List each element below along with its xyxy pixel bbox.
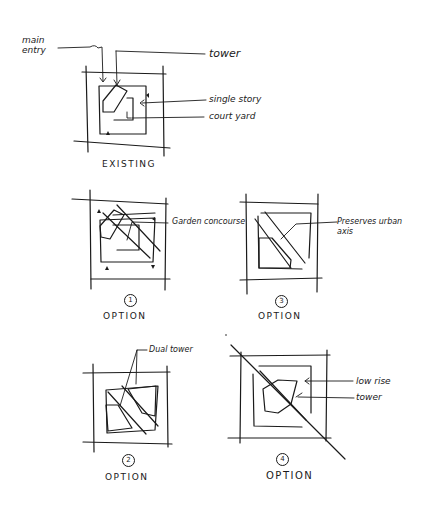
option-4-plan — [225, 334, 354, 459]
label-single-story: single story — [209, 95, 261, 104]
option-2-plan — [83, 350, 172, 452]
caption-option-2: OPTION — [105, 473, 148, 482]
label-dual-tower: Dual tower — [149, 346, 193, 354]
caption-option-4: OPTION — [266, 471, 313, 481]
option-2-number: 2 — [122, 454, 135, 467]
label-main-entry-line1: main — [22, 36, 45, 45]
label-low-rise: low rise — [356, 377, 391, 386]
caption-option-1: OPTION — [103, 312, 146, 321]
label-garden-concourse: Garden concourse — [172, 218, 245, 226]
option-3-number: 3 — [275, 295, 288, 308]
label-tower-4: tower — [356, 393, 382, 402]
option-1-plan — [72, 190, 170, 290]
label-preserves-urban: Preserves urban — [337, 218, 402, 226]
label-axis: axis — [337, 228, 353, 236]
label-main-entry-line2: entry — [22, 46, 46, 55]
caption-option-3: OPTION — [258, 312, 301, 321]
sketch-drawing — [0, 0, 428, 510]
label-court-yard: court yard — [209, 112, 256, 121]
label-tower: tower — [209, 48, 240, 59]
caption-existing: EXISTING — [102, 160, 156, 169]
existing-plan — [58, 46, 206, 156]
option-4-number: 4 — [276, 453, 289, 466]
option-3-plan — [240, 194, 337, 294]
option-1-number: 1 — [124, 294, 137, 307]
